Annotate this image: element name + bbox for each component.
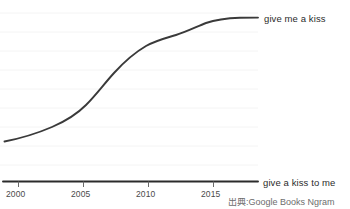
ngram-chart: give me a kiss give a kiss to me 2000 20…: [0, 0, 350, 209]
x-tick-label-2005: 2005: [71, 190, 90, 199]
x-tick-label-2010: 2010: [136, 190, 155, 199]
x-tick-label-2015: 2015: [201, 190, 220, 199]
gridlines: [0, 13, 258, 165]
source-attribution: 出典:Google Books Ngram: [228, 198, 335, 207]
series-label-give-a-kiss-to-me: give a kiss to me: [263, 178, 335, 188]
series-label-give-me-a-kiss: give me a kiss: [264, 14, 326, 24]
x-tick-label-2000: 2000: [6, 190, 25, 199]
series-line-give-me-a-kiss: [5, 18, 259, 142]
